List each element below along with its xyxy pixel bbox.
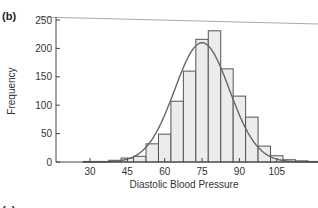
y-tick-label: 50	[41, 128, 53, 139]
scan-artifact-line	[40, 17, 318, 24]
y-axis-label: Frequency	[6, 67, 17, 114]
histogram-bar	[196, 39, 208, 162]
y-tick-label: 100	[35, 100, 52, 111]
histogram-bar	[146, 144, 158, 162]
x-tick-label: 45	[122, 166, 134, 177]
y-tick-label: 150	[35, 71, 52, 82]
x-tick-label: 75	[196, 166, 208, 177]
histogram-bar	[208, 31, 220, 162]
bars	[84, 31, 318, 162]
histogram-bar	[158, 134, 170, 162]
histogram-bar	[183, 71, 195, 162]
panel-label: (b)	[2, 10, 16, 22]
histogram-bar	[171, 101, 183, 162]
next-panel-label: (c)	[2, 204, 16, 208]
x-tick-label: 60	[159, 166, 171, 177]
x-axis-label: Diastolic Blood Pressure	[130, 179, 239, 190]
x-tick-label: 90	[234, 166, 246, 177]
y-tick-label: 250	[35, 15, 52, 26]
y-tick-label: 0	[46, 157, 52, 168]
next-panel-tick: 150	[36, 207, 50, 208]
histogram-chart: (b) 0501001502002503045607590105 Diastol…	[0, 0, 318, 208]
histogram-bar	[134, 156, 146, 162]
x-tick-label: 105	[268, 166, 285, 177]
x-tick-label: 30	[84, 166, 96, 177]
y-tick-label: 200	[35, 43, 52, 54]
